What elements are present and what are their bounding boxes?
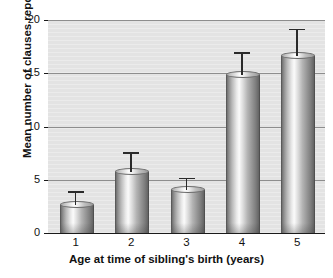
bar-body (60, 205, 94, 233)
error-bar-stem (241, 52, 243, 75)
bars-layer (48, 20, 325, 233)
x-axis-line (48, 233, 325, 234)
bar-body (281, 56, 315, 233)
bar-3[interactable] (171, 20, 203, 233)
x-tick-label: 1 (72, 236, 78, 248)
bar-top-cap (115, 168, 149, 175)
bar-body (226, 75, 260, 233)
error-bar-stem (130, 152, 132, 172)
bar-5[interactable] (281, 20, 313, 233)
x-tick-label: 5 (294, 236, 300, 248)
bar-top-cap (60, 201, 94, 208)
bar-base-shadow (227, 223, 259, 233)
x-tick-label: 4 (239, 236, 245, 248)
bar-base-shadow (282, 223, 314, 233)
bar-1[interactable] (60, 20, 92, 233)
bar-base-shadow (116, 223, 148, 233)
x-axis-title: Age at time of sibling's birth (years) (0, 253, 333, 265)
error-bar-stem (186, 178, 188, 191)
y-tick-label: 5 (14, 173, 40, 185)
bar-top-cap (281, 52, 315, 59)
error-bar-stem (75, 191, 77, 205)
y-tick-label: 0 (14, 226, 40, 238)
error-bar-stem (296, 29, 298, 57)
bar-top-cap (171, 186, 205, 193)
bar-body (171, 190, 205, 233)
bar-top-cap (226, 71, 260, 78)
y-tick-label: 10 (14, 120, 40, 132)
error-bar-cap (123, 152, 139, 154)
x-tick-label: 3 (183, 236, 189, 248)
error-bar-cap (179, 178, 195, 180)
bar-chart: Mean number of clauses reported 05101520… (0, 0, 333, 278)
bar-2[interactable] (115, 20, 147, 233)
x-tick-label: 2 (128, 236, 134, 248)
bar-4[interactable] (226, 20, 258, 233)
bar-base-shadow (172, 223, 204, 233)
bar-body (115, 172, 149, 233)
error-bar-cap (289, 29, 305, 31)
y-tick-label: 20 (14, 13, 40, 25)
bar-base-shadow (61, 223, 93, 233)
error-bar-cap (68, 191, 84, 193)
error-bar-cap (234, 52, 250, 54)
y-tick-label: 15 (14, 66, 40, 78)
